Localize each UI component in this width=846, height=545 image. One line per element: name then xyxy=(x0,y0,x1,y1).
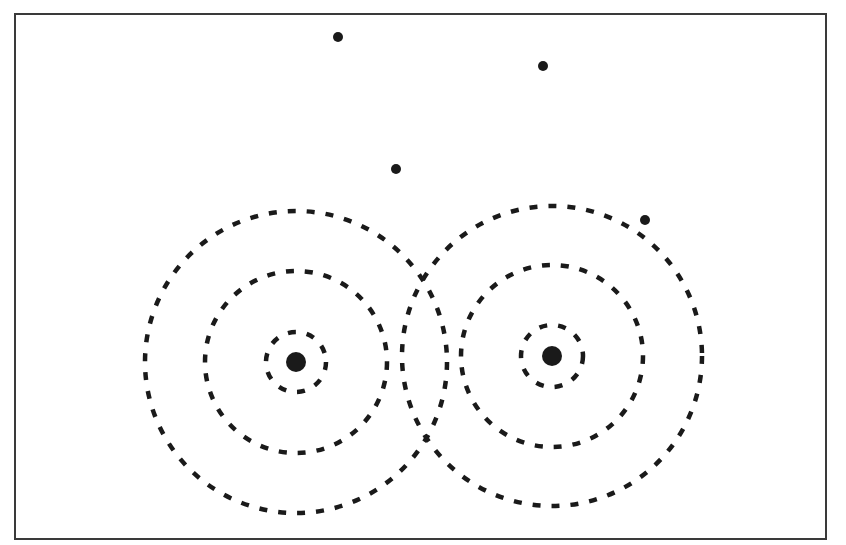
isolated-point xyxy=(391,164,401,174)
isolated-point xyxy=(333,32,343,42)
isolated-points xyxy=(333,32,650,225)
wave-sources xyxy=(145,206,702,513)
isolated-point xyxy=(538,61,548,71)
isolated-point xyxy=(640,215,650,225)
wave-diagram xyxy=(0,0,846,545)
source-dot xyxy=(286,352,306,372)
right-source xyxy=(402,206,702,506)
source-dot xyxy=(542,346,562,366)
left-source xyxy=(145,211,447,513)
